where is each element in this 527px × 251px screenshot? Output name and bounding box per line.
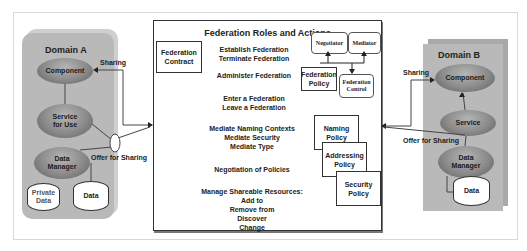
sharing-connectors (0, 0, 527, 251)
interface-ellipse (110, 134, 120, 152)
